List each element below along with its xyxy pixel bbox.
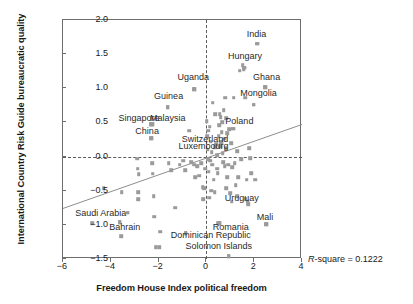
y-axis-tick-label: 0.0 — [68, 151, 108, 161]
data-point — [120, 190, 124, 194]
data-point — [230, 166, 234, 170]
y-axis-tick-label: −0.5 — [68, 185, 108, 195]
point-label: Saudi Arabia — [75, 208, 126, 218]
data-point — [227, 254, 231, 258]
data-point — [136, 190, 140, 194]
data-point — [157, 246, 161, 250]
data-point — [137, 173, 141, 177]
data-point — [184, 168, 188, 172]
data-point — [252, 103, 256, 107]
data-point — [264, 222, 268, 226]
data-point — [249, 156, 253, 160]
data-point — [207, 170, 211, 174]
x-axis-tick-mark — [110, 258, 111, 262]
data-point — [253, 178, 257, 182]
x-axis-title: Freedom House Index political freedom — [62, 283, 301, 293]
data-point — [207, 196, 211, 200]
data-point — [197, 174, 201, 178]
point-label: Solomon Islands — [186, 241, 253, 251]
x-axis-tick-label: −6 — [42, 261, 82, 271]
data-point — [205, 119, 209, 123]
x-axis-tick-mark — [205, 258, 206, 262]
data-point — [208, 159, 212, 163]
y-axis-tick-label: 0.5 — [68, 116, 108, 126]
data-point — [221, 160, 225, 164]
y-axis-tick-mark — [62, 87, 66, 88]
data-point — [239, 158, 243, 162]
data-point — [245, 178, 249, 182]
data-point — [201, 197, 205, 201]
y-axis-tick-mark — [62, 190, 66, 191]
data-point — [153, 215, 157, 219]
data-point — [166, 106, 170, 110]
data-point — [222, 108, 226, 112]
data-point — [213, 190, 217, 194]
data-point — [215, 153, 219, 157]
data-point — [218, 112, 222, 116]
data-point — [192, 87, 196, 91]
data-point — [248, 147, 252, 151]
data-point — [135, 157, 139, 161]
data-point — [149, 136, 153, 140]
data-point — [229, 141, 233, 145]
data-point — [242, 66, 246, 70]
data-point — [169, 168, 173, 172]
point-label: Guinea — [154, 91, 183, 101]
chart-figure: International Country Risk Guide bureauc… — [0, 0, 413, 304]
x-axis-tick-label: −2 — [138, 261, 178, 271]
point-label: Ghana — [253, 72, 280, 82]
point-label: China — [135, 126, 159, 136]
data-point — [231, 127, 235, 131]
data-point — [152, 194, 156, 198]
data-point — [233, 162, 237, 166]
point-label: Mongolia — [240, 88, 277, 98]
point-label: Dominican Republic — [171, 230, 251, 240]
data-point — [212, 178, 216, 182]
data-point — [210, 163, 214, 167]
x-axis-tick-label: 2 — [233, 261, 273, 271]
data-point — [136, 197, 140, 201]
data-point — [151, 172, 155, 176]
point-label: Bahrain — [109, 222, 140, 232]
data-point — [167, 162, 171, 166]
point-label: Poland — [225, 116, 253, 126]
data-point — [220, 121, 224, 125]
x-axis-tick-mark — [158, 258, 159, 262]
data-point — [209, 189, 213, 193]
data-point — [199, 162, 203, 166]
data-point — [150, 162, 154, 166]
data-point — [216, 171, 220, 175]
data-point — [232, 96, 236, 100]
data-point — [211, 101, 215, 105]
y-axis-tick-mark — [62, 53, 66, 54]
data-point — [203, 186, 207, 190]
y-axis-tick-label: 1.5 — [68, 48, 108, 58]
y-axis-tick-mark — [62, 156, 66, 157]
data-point — [158, 230, 162, 234]
data-point — [207, 129, 211, 133]
data-point — [136, 167, 140, 171]
data-point — [182, 159, 186, 163]
point-label: Uruguay — [225, 193, 259, 203]
point-label: Luxembourg — [179, 141, 229, 151]
x-axis-tick-label: −4 — [90, 261, 130, 271]
r-square-annotation: R-square = 0.1222 — [308, 254, 383, 264]
y-axis-title: International Country Risk Guide bureauc… — [16, 4, 26, 254]
data-point — [214, 112, 218, 116]
y-axis-tick-mark — [62, 224, 66, 225]
x-axis-tick-mark — [253, 258, 254, 262]
data-point — [208, 125, 212, 129]
point-label: Uganda — [177, 72, 209, 82]
data-point — [235, 149, 239, 153]
x-axis-tick-mark — [62, 258, 63, 262]
point-label: India — [247, 29, 267, 39]
data-point — [120, 235, 124, 239]
data-point — [234, 183, 238, 187]
data-point — [178, 163, 182, 167]
data-point — [226, 175, 230, 179]
data-point — [221, 151, 225, 155]
data-point — [224, 186, 228, 190]
data-point — [255, 42, 259, 46]
y-axis-tick-label: 2.0 — [68, 14, 108, 24]
data-point — [250, 171, 254, 175]
